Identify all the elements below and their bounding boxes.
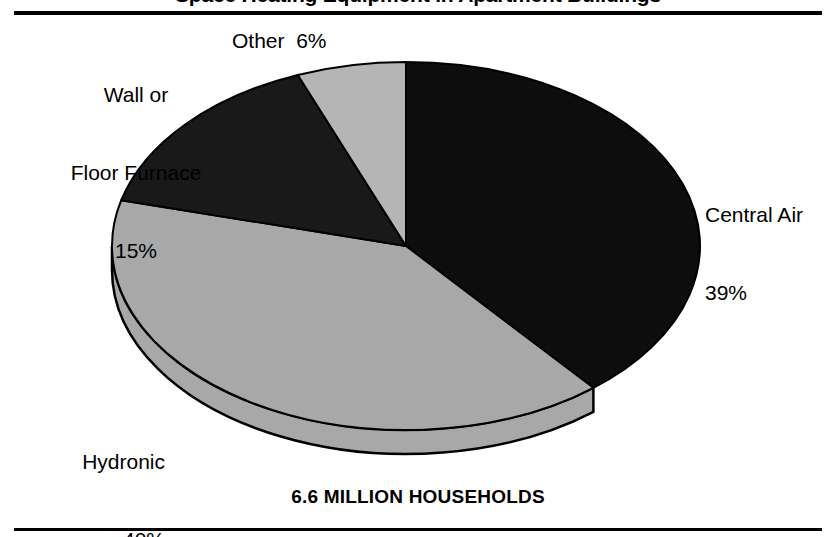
- slice-label-central-air: Central Air 39%: [705, 150, 803, 358]
- hydronic-label-line1: Hydronic: [20, 449, 165, 475]
- slice-label-hydronic: Hydronic 40%: [20, 397, 165, 537]
- chart-caption-total: 6.6 MILLION HOUSEHOLDS: [0, 486, 836, 508]
- central-label-percent: 39%: [705, 280, 803, 306]
- slice-label-wall-floor-furnace: Wall or Floor Furnace 15%: [48, 30, 224, 316]
- slice-label-other: Other 6%: [232, 28, 327, 54]
- wall-label-line1: Wall or: [48, 82, 224, 108]
- wall-label-line2: Floor Furnace: [48, 160, 224, 186]
- chart-page: Space Heating Equipment in Apartment Bui…: [0, 0, 836, 537]
- wall-label-percent: 15%: [48, 238, 224, 264]
- central-label-line1: Central Air: [705, 202, 803, 228]
- bottom-divider-rule: [14, 528, 822, 531]
